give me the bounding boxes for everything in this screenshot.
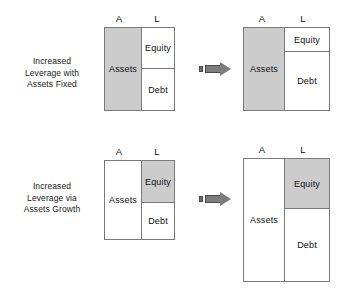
right-arrow-icon-head [220, 62, 231, 76]
column-header-assets: A [255, 13, 269, 24]
column-header-liabilities: L [150, 13, 164, 24]
column-header-assets: A [112, 13, 126, 24]
row-caption-leverage-assets-growth: Increased Leverage via Assets Growth [4, 181, 100, 216]
column-header-assets: A [255, 144, 269, 155]
transition-arrow-row2 [199, 193, 233, 207]
assets-cell: Assets [105, 28, 141, 110]
right-arrow-icon-body [205, 65, 221, 73]
column-header-assets: A [112, 146, 126, 157]
balance-sheet-after-row1: Assets Equity Debt [243, 27, 330, 111]
debt-cell: Debt [285, 51, 329, 110]
assets-cell: Assets [244, 159, 284, 281]
balance-sheet-after-row2: Assets Equity Debt [243, 158, 330, 282]
assets-cell: Assets [105, 161, 141, 239]
caption-line: Increased [4, 56, 100, 68]
caption-line: Assets Growth [4, 204, 100, 216]
debt-cell: Debt [142, 202, 174, 239]
transition-arrow-row1 [199, 63, 233, 77]
caption-line: Leverage with [4, 68, 100, 80]
right-arrow-icon-tail [199, 66, 203, 72]
equity-cell: Equity [142, 161, 174, 202]
column-header-liabilities: L [150, 146, 164, 157]
assets-cell: Assets [244, 28, 284, 110]
equity-cell: Equity [142, 28, 174, 68]
right-arrow-icon-tail [199, 196, 203, 202]
caption-line: Leverage via [4, 193, 100, 205]
column-header-liabilities: L [296, 13, 310, 24]
balance-sheet-before-row2: Assets Equity Debt [104, 160, 175, 240]
debt-cell: Debt [142, 68, 174, 110]
right-arrow-icon-head [220, 192, 231, 206]
caption-line: Assets Fixed [4, 79, 100, 91]
row-caption-leverage-assets-fixed: Increased Leverage with Assets Fixed [4, 56, 100, 91]
equity-cell: Equity [285, 28, 329, 51]
equity-cell: Equity [285, 159, 329, 208]
debt-cell: Debt [285, 208, 329, 281]
column-header-liabilities: L [296, 144, 310, 155]
right-arrow-icon-body [205, 195, 221, 203]
balance-sheet-before-row1: Assets Equity Debt [104, 27, 175, 111]
figure-canvas: Increased Leverage with Assets Fixed A L… [0, 0, 341, 302]
caption-line: Increased [4, 181, 100, 193]
